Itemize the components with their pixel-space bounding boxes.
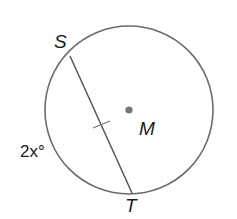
arc-measure-label: 2x° [20, 142, 45, 161]
circle-diagram: S T M 2x° [0, 0, 237, 219]
point-label-T: T [125, 195, 138, 216]
center-label-M: M [139, 118, 155, 139]
point-label-S: S [54, 31, 67, 52]
center-point-M [125, 106, 132, 113]
